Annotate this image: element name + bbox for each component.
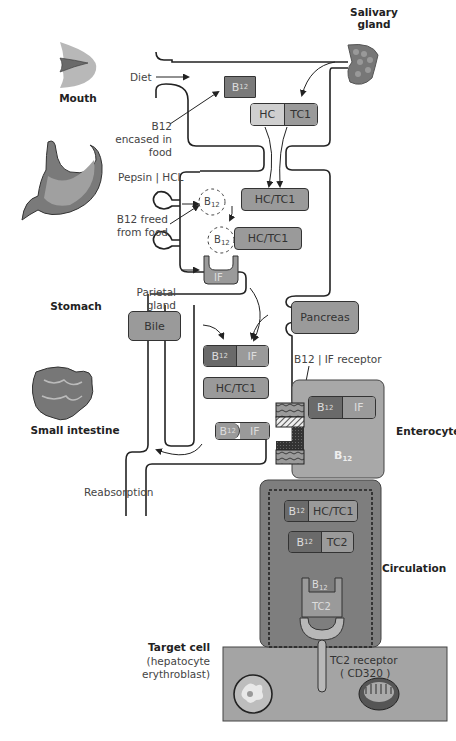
b12-segment: B12 (309, 397, 343, 418)
b12-in-food-box: B12 (224, 76, 256, 98)
tc2-cup-label: TC2 (312, 601, 331, 612)
label-parietal-gland: Parietal gland (126, 286, 176, 312)
tc1-segment: TC1 (285, 104, 318, 125)
pancreas-box: Pancreas (291, 301, 359, 334)
organ-label-small-intestine: Small intestine (20, 424, 130, 436)
label-pepsin-hcl: Pepsin | HCL (118, 171, 183, 184)
label-cd320: ( CD320 ) (340, 667, 390, 680)
mitochondrion-icon (359, 678, 399, 710)
organ-label-enterocyte: Enterocyte (396, 425, 456, 437)
label-b12-encased: B12 encased in food (112, 120, 172, 159)
small-intestine-icon (32, 367, 92, 420)
b12-segment: B12 (285, 501, 309, 521)
organ-label-circulation: Circulation (382, 562, 456, 574)
b12-hc-tc1-complex: B12 HC/TC1 (284, 500, 358, 522)
if-segment: IF (343, 397, 376, 418)
b12-segment: B12 (204, 346, 237, 366)
organ-label-stomach: Stomach (36, 300, 116, 312)
hc-tc1-box-2: HC/TC1 (234, 227, 302, 250)
label-diet: Diet (130, 71, 152, 84)
hc-segment: HC (251, 104, 285, 125)
b12-in-tc2-label: B12 (312, 579, 328, 592)
b12-freed-label-2: B12 (214, 234, 230, 247)
b12-if-complex-lumen: B12 IF (203, 345, 269, 367)
if-segment: IF (237, 346, 269, 366)
target-cell-examples: (hepatocyte erythroblast) (132, 655, 210, 681)
salivary-gland-icon (348, 44, 378, 84)
hc-tc1-box-intestine: HC/TC1 (203, 377, 269, 399)
label-b12-freed: B12 freed from food (116, 213, 168, 239)
organ-label-target-cell: Target cell (134, 641, 210, 653)
b12-if-receptor-icon (276, 403, 304, 464)
tc2-segment: TC2 (322, 532, 354, 552)
if-cup-label: IF (214, 272, 223, 283)
enterocyte-cell (292, 380, 384, 478)
hc-tc1-segment: HC/TC1 (309, 501, 357, 521)
bile-box: Bile (128, 311, 181, 341)
pathway-lines (0, 0, 456, 741)
b12-tc2-complex: B12 TC2 (288, 531, 354, 553)
mouth-icon (60, 42, 96, 88)
b12-segment: B12 (289, 532, 322, 552)
hc-tc1-complex: HC TC1 (250, 103, 318, 126)
hc-tc1-box-1: HC/TC1 (241, 188, 309, 211)
b12-segment: B12 (216, 423, 240, 439)
free-b12-label: B12 (334, 449, 352, 463)
organ-label-salivary-gland: Salivary gland (344, 6, 404, 30)
label-tc2-receptor: TC2 receptor (330, 654, 397, 667)
nucleus-icon (234, 675, 272, 713)
b12-if-binding-receptor: B12 IF (215, 422, 270, 440)
label-reabsorption: Reabsorption (84, 486, 153, 499)
label-b12-if-receptor: B12 | IF receptor (294, 353, 382, 366)
stomach-icon (22, 141, 102, 220)
if-segment: IF (240, 423, 269, 439)
b12-freed-label-1: B12 (204, 196, 220, 209)
b12-if-complex-enterocyte: B12 IF (308, 396, 376, 419)
organ-label-mouth: Mouth (48, 92, 108, 104)
